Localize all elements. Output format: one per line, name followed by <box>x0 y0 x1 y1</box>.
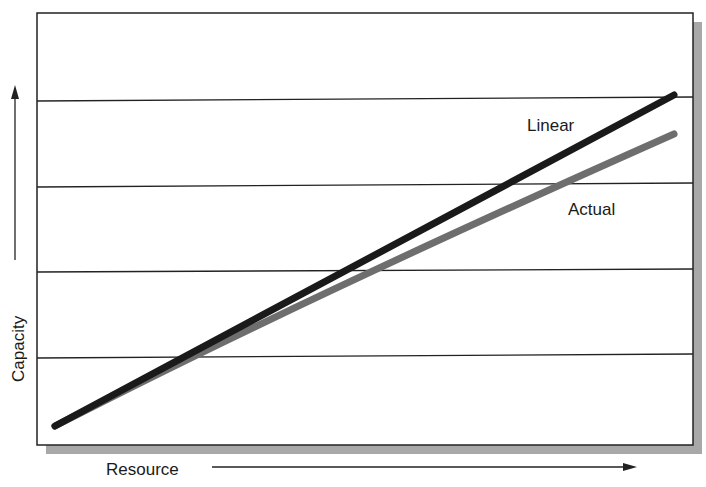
y-axis-arrow-head-icon <box>11 85 19 99</box>
x-axis-arrow-head-icon <box>623 463 637 471</box>
y-axis-label: Capacity <box>9 315 28 382</box>
label-linear: Linear <box>527 116 575 135</box>
label-actual: Actual <box>568 200 615 219</box>
chart-canvas: Linear Actual Capacity Resource <box>0 0 706 487</box>
x-axis-label: Resource <box>106 460 179 479</box>
